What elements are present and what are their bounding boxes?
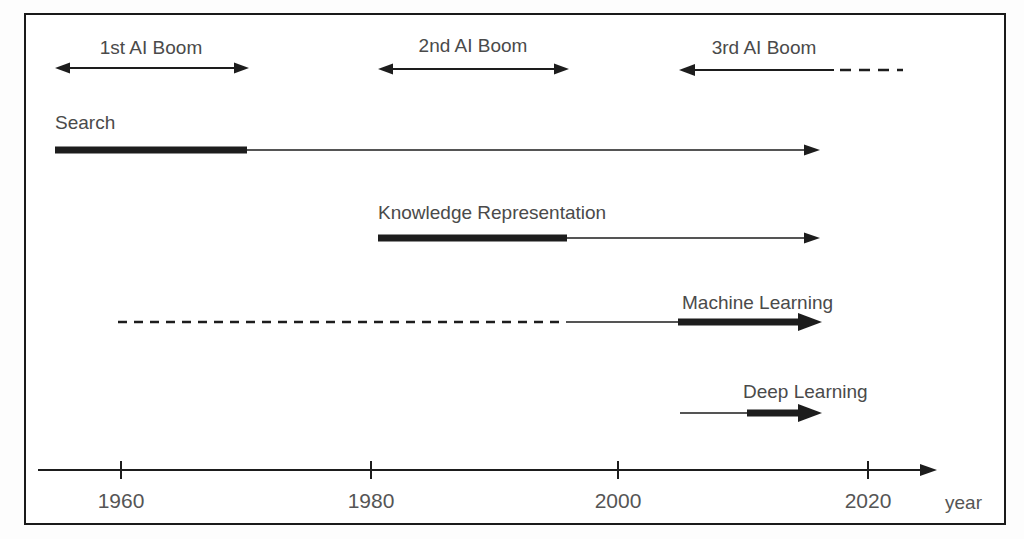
figure-border [25,14,1005,524]
axis-label-year: year [945,492,983,513]
track-label-search: Search [55,112,115,133]
track-label-machine-learning: Machine Learning [682,292,833,313]
track-label-deep-learning: Deep Learning [743,381,868,402]
boom-label-2nd: 2nd AI Boom [419,35,528,56]
boom-label-3rd: 3rd AI Boom [712,37,817,58]
axis-tick-label: 2000 [595,489,642,512]
axis-tick-label: 1960 [98,489,145,512]
track-label-knowledge-representation: Knowledge Representation [378,202,606,223]
figure-container: 1st AI Boom 2nd AI Boom 3rd AI Boom Sear… [0,0,1024,539]
axis-tick-label: 2020 [845,489,892,512]
axis-tick-label: 1980 [348,489,395,512]
boom-label-1st: 1st AI Boom [100,37,202,58]
ai-history-timeline: 1st AI Boom 2nd AI Boom 3rd AI Boom Sear… [0,0,1024,539]
